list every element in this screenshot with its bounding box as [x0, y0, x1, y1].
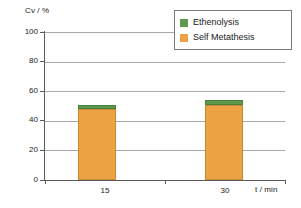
- legend-item-ethenolysis: Ethenolysis: [180, 15, 286, 30]
- plot-area: [45, 32, 285, 180]
- legend-label-ethenolysis: Ethenolysis: [193, 18, 239, 27]
- chart-container: Cv / % 100 80 60 40 20 0: [0, 0, 301, 208]
- x-tick-mark-end: [285, 180, 286, 184]
- y-tick-label-40: 40: [14, 116, 38, 124]
- y-axis-tick-labels: 100 80 60 40 20 0: [10, 0, 38, 208]
- x-axis-title: t / min: [255, 185, 277, 194]
- x-tick-label-15: 15: [85, 187, 125, 195]
- y-tick-label-60: 60: [14, 87, 38, 95]
- bar-segment-ethenolysis-30: [205, 100, 243, 104]
- legend-label-self-metathesis: Self Metathesis: [193, 33, 255, 42]
- gridline-60: [45, 91, 285, 92]
- bar-segment-ethenolysis-15: [78, 105, 116, 109]
- y-tick-label-80: 80: [14, 57, 38, 65]
- y-tick-label-100: 100: [14, 28, 38, 36]
- x-tick-mark-start: [45, 180, 46, 184]
- legend-swatch-self-metathesis-icon: [180, 34, 188, 42]
- legend-swatch-ethenolysis-icon: [180, 19, 188, 27]
- y-tick-label-0: 0: [14, 176, 38, 184]
- gridline-80: [45, 62, 285, 63]
- x-tick-label-30: 30: [205, 187, 245, 195]
- bar-segment-self-metathesis-30: [205, 105, 243, 180]
- legend-item-self-metathesis: Self Metathesis: [180, 30, 286, 45]
- chart-legend: Ethenolysis Self Metathesis: [174, 10, 292, 50]
- x-tick-mark-middle: [165, 180, 166, 184]
- y-tick-label-20: 20: [14, 146, 38, 154]
- y-axis-line: [44, 31, 45, 181]
- bar-segment-self-metathesis-15: [78, 109, 116, 180]
